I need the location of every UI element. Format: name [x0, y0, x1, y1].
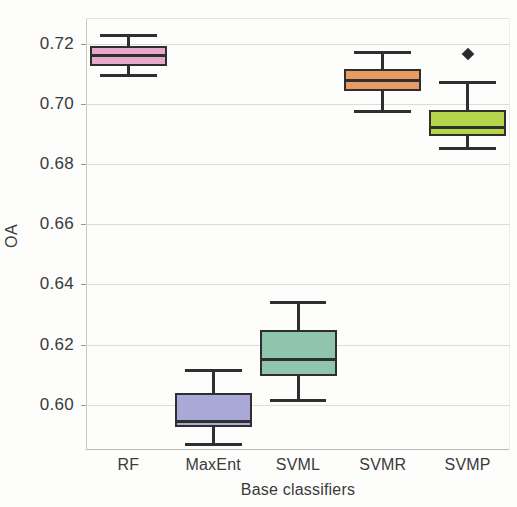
- whisker-upper: [381, 52, 384, 69]
- x-tick-label-svml: SVML: [276, 456, 320, 474]
- y-tick-label: 0.68: [2, 154, 74, 174]
- axis-line-top: [86, 18, 510, 19]
- x-tick-label-rf: RF: [118, 456, 140, 474]
- axis-line-left: [86, 18, 87, 450]
- whisker-upper: [466, 82, 469, 109]
- y-tick-label: 0.60: [2, 395, 74, 415]
- whisker-cap-upper: [354, 51, 411, 54]
- y-tick-mark: [81, 104, 86, 105]
- x-tick-label-maxent: MaxEnt: [185, 456, 240, 474]
- whisker-upper: [212, 371, 215, 393]
- box-svmp: [429, 110, 506, 136]
- whisker-cap-lower: [270, 399, 327, 402]
- y-tick-label: 0.70: [2, 94, 74, 114]
- whisker-cap-lower: [439, 147, 496, 150]
- whisker-lower: [297, 376, 300, 401]
- gridline: [86, 405, 510, 406]
- gridline: [86, 224, 510, 225]
- median-line: [429, 126, 506, 129]
- median-line: [260, 358, 337, 361]
- whisker-upper: [297, 303, 300, 331]
- box-svml: [260, 330, 337, 375]
- y-tick-label: 0.62: [2, 335, 74, 355]
- whisker-cap-lower: [100, 74, 157, 77]
- x-axis-label: Base classifiers: [241, 481, 355, 499]
- y-tick-mark: [81, 44, 86, 45]
- whisker-cap-upper: [100, 34, 157, 37]
- y-tick-mark: [81, 284, 86, 285]
- axis-line-right: [509, 18, 510, 450]
- y-tick-mark: [81, 405, 86, 406]
- gridline: [86, 284, 510, 285]
- whisker-lower: [381, 91, 384, 112]
- gridline: [86, 104, 510, 105]
- y-tick-mark: [81, 164, 86, 165]
- gridline: [86, 44, 510, 45]
- plot-area: [86, 18, 510, 450]
- x-tick-label-svmr: SVMR: [359, 456, 406, 474]
- boxplot-figure: OA 0.600.620.640.660.680.700.72 RFMaxEnt…: [0, 0, 517, 507]
- median-line: [90, 54, 167, 57]
- whisker-cap-upper: [439, 81, 496, 84]
- median-line: [175, 420, 252, 423]
- y-tick-mark: [81, 224, 86, 225]
- whisker-lower: [212, 427, 215, 444]
- y-tick-label: 0.66: [2, 214, 74, 234]
- axis-line-bottom: [86, 449, 510, 450]
- whisker-cap-upper: [270, 301, 327, 304]
- outlier-marker: [461, 47, 474, 60]
- x-tick-label-svmp: SVMP: [445, 456, 491, 474]
- whisker-cap-lower: [185, 443, 242, 446]
- y-tick-label: 0.72: [2, 34, 74, 54]
- y-tick-mark: [81, 345, 86, 346]
- whisker-cap-lower: [354, 110, 411, 113]
- whisker-cap-upper: [185, 369, 242, 372]
- median-line: [344, 79, 421, 82]
- y-tick-label: 0.64: [2, 274, 74, 294]
- gridline: [86, 164, 510, 165]
